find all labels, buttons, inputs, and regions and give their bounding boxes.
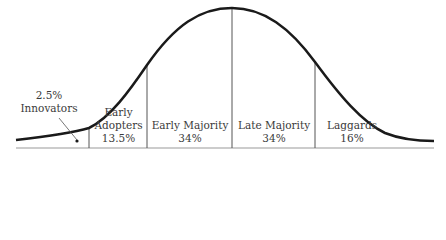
label-late-majority: Late Majority 34% [233, 119, 315, 145]
late-majority-percent: 34% [233, 132, 315, 145]
late-majority-name: Late Majority [233, 119, 315, 132]
early-adopters-percent: 13.5% [90, 132, 147, 145]
early-majority-percent: 34% [148, 132, 232, 145]
label-early-adopters: Early Adopters 13.5% [90, 106, 147, 145]
early-majority-name: Early Majority [148, 119, 232, 132]
label-early-majority: Early Majority 34% [148, 119, 232, 145]
laggards-name: Laggards [316, 119, 388, 132]
label-innovators: 2.5% Innovators [18, 89, 80, 115]
innovators-pointer [59, 118, 77, 140]
early-adopters-name-line1: Early [90, 106, 147, 119]
innovators-dot [75, 139, 78, 142]
innovators-percent: 2.5% [18, 89, 80, 102]
early-adopters-name-line2: Adopters [90, 119, 147, 132]
laggards-percent: 16% [316, 132, 388, 145]
label-laggards: Laggards 16% [316, 119, 388, 145]
innovators-name: Innovators [18, 102, 80, 115]
